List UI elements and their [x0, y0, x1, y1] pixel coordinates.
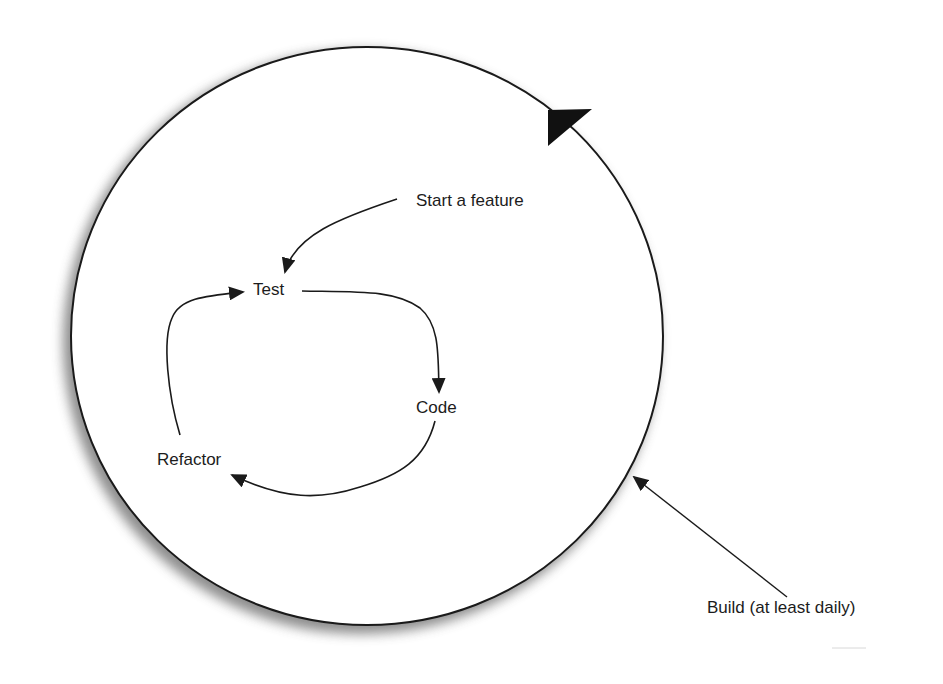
label-start-a-feature: Start a feature [416, 191, 524, 211]
label-build: Build (at least daily) [707, 598, 855, 618]
label-test: Test [253, 280, 284, 300]
build-cycle-circle [63, 47, 663, 634]
label-code: Code [416, 398, 457, 418]
label-refactor: Refactor [157, 450, 221, 470]
arrow-build-to-circle [634, 477, 787, 597]
diagram-canvas [0, 0, 943, 684]
